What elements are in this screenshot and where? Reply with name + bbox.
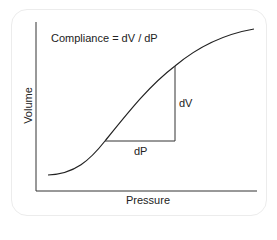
compliance-curve	[48, 29, 254, 175]
delta-v-label: dV	[179, 98, 192, 109]
diagram-title: Compliance = dV / dP	[51, 33, 158, 44]
delta-p-label: dP	[134, 146, 147, 157]
y-axis-label: Volume	[23, 81, 34, 131]
x-axis-label: Pressure	[126, 195, 170, 206]
